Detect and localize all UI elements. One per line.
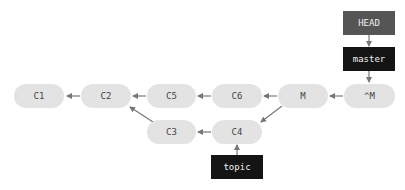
commit-revert-m[interactable]: ^M <box>344 84 395 108</box>
commit-c3[interactable]: C3 <box>147 120 196 144</box>
commit-c5[interactable]: C5 <box>147 84 196 108</box>
commit-label: C6 <box>232 91 243 101</box>
commit-c4[interactable]: C4 <box>212 120 262 144</box>
commit-label: C4 <box>232 127 243 137</box>
commit-label: C1 <box>34 91 45 101</box>
commit-label: M <box>300 91 305 101</box>
commit-c2[interactable]: C2 <box>81 84 131 108</box>
commit-label: ^M <box>364 91 375 101</box>
ref-label: HEAD <box>358 18 380 28</box>
commit-c6[interactable]: C6 <box>212 84 262 108</box>
commit-label: C5 <box>166 91 177 101</box>
ref-topic-branch[interactable]: topic <box>211 155 263 179</box>
commit-m[interactable]: M <box>278 84 328 108</box>
edge-m-c4 <box>261 106 282 122</box>
ref-label: topic <box>223 162 250 172</box>
commit-label: C3 <box>166 127 177 137</box>
ref-master-branch[interactable]: master <box>343 47 395 71</box>
ref-head[interactable]: HEAD <box>343 11 395 35</box>
commit-label: C2 <box>101 91 112 101</box>
commit-c1[interactable]: C1 <box>14 84 64 108</box>
edge-c3-c2 <box>130 107 153 122</box>
ref-label: master <box>353 54 386 64</box>
